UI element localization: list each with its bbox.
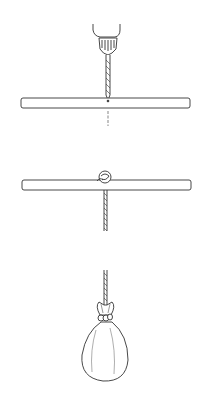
drill-body [93, 24, 120, 37]
instruction-diagram [0, 0, 201, 396]
bag-tie-icon [98, 314, 113, 321]
step-2-rod-knot [22, 171, 191, 231]
step-3-bag [82, 270, 128, 381]
rope-icon [104, 270, 107, 306]
bag-icon [82, 322, 128, 381]
bag-tuft [97, 302, 114, 315]
step-1-drill [21, 24, 190, 126]
rod-1 [21, 98, 190, 108]
rope-icon [104, 190, 107, 231]
drill-hole [107, 100, 109, 102]
